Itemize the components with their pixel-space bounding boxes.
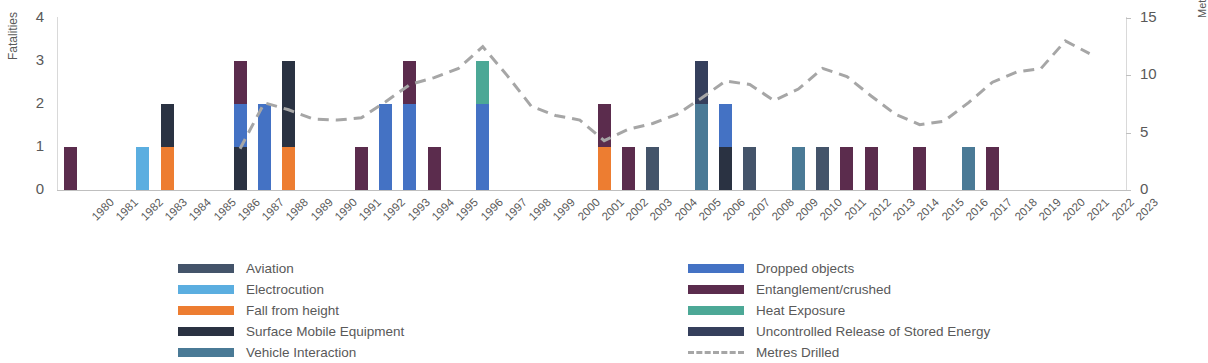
x-tick-2010: 2010 <box>818 196 845 223</box>
x-tick-2004: 2004 <box>672 196 699 223</box>
metres-drilled-line <box>58 18 1126 190</box>
legend-item-heat-exposure[interactable]: Heat Exposure <box>688 300 990 321</box>
x-tick-1987: 1987 <box>260 196 287 223</box>
x-tick-2000: 2000 <box>575 196 602 223</box>
x-tick-2021: 2021 <box>1085 196 1112 223</box>
x-tick-2012: 2012 <box>866 196 893 223</box>
x-tick-2001: 2001 <box>599 196 626 223</box>
legend-label: Entanglement/crushed <box>756 282 891 297</box>
x-tick-2023: 2023 <box>1133 196 1160 223</box>
x-tick-1981: 1981 <box>114 196 141 223</box>
y-tick-mark-right-5 <box>1126 133 1131 134</box>
legend-item-electrocution[interactable]: Electrocution <box>178 279 404 300</box>
legend-swatch-icon <box>688 285 744 294</box>
legend-swatch-icon <box>178 285 234 294</box>
x-tick-2006: 2006 <box>721 196 748 223</box>
x-tick-2011: 2011 <box>842 196 868 222</box>
legend-item-vehicle-interaction[interactable]: Vehicle Interaction <box>178 342 404 363</box>
legend-item-aviation[interactable]: Aviation <box>178 258 404 279</box>
legend-label: Electrocution <box>246 282 324 297</box>
x-tick-1988: 1988 <box>284 196 311 223</box>
y-tick-mark-right-0 <box>1126 190 1131 191</box>
legend-item-entanglement-crushed[interactable]: Entanglement/crushed <box>688 279 990 300</box>
legend-label: Uncontrolled Release of Stored Energy <box>756 324 990 339</box>
legend-label: Metres Drilled <box>756 345 839 360</box>
x-tick-2013: 2013 <box>891 196 918 223</box>
y-tick-right-15: 15 <box>1140 8 1162 25</box>
legend-swatch-icon <box>688 327 744 336</box>
legend-swatch-icon <box>178 264 234 273</box>
y-axis-left-title: Fatalities <box>6 12 20 60</box>
x-tick-2009: 2009 <box>794 196 821 223</box>
legend-swatch-icon <box>688 351 744 354</box>
x-tick-2003: 2003 <box>648 196 675 223</box>
x-tick-1983: 1983 <box>162 196 189 223</box>
legend-left-column: AviationElectrocutionFall from heightSur… <box>178 258 404 363</box>
legend-swatch-icon <box>178 306 234 315</box>
x-tick-2015: 2015 <box>939 196 966 223</box>
y-axis-right-title: Metres Drilled (Millions) <box>1196 0 1208 18</box>
legend-label: Dropped objects <box>756 261 854 276</box>
x-tick-1990: 1990 <box>332 196 359 223</box>
y-tick-mark-right-15 <box>1126 18 1131 19</box>
y-tick-left-4: 4 <box>22 8 44 25</box>
x-tick-1996: 1996 <box>478 196 505 223</box>
x-tick-1994: 1994 <box>429 196 456 223</box>
x-tick-2005: 2005 <box>696 196 723 223</box>
legend-item-dropped-objects[interactable]: Dropped objects <box>688 258 990 279</box>
x-tick-2007: 2007 <box>745 196 772 223</box>
y-axis-right-line <box>1126 17 1127 191</box>
x-tick-2017: 2017 <box>988 196 1015 223</box>
x-tick-1989: 1989 <box>308 196 335 223</box>
y-tick-right-10: 10 <box>1140 65 1162 82</box>
legend-swatch-icon <box>178 327 234 336</box>
x-tick-1984: 1984 <box>187 196 214 223</box>
y-tick-mark-right-10 <box>1126 75 1131 76</box>
x-tick-1986: 1986 <box>235 196 262 223</box>
y-tick-left-3: 3 <box>22 51 44 68</box>
x-tick-1980: 1980 <box>90 196 117 223</box>
legend-item-fall-from-height[interactable]: Fall from height <box>178 300 404 321</box>
x-tick-2002: 2002 <box>624 196 651 223</box>
legend-label: Fall from height <box>246 303 339 318</box>
x-axis-line <box>57 190 1127 191</box>
legend-label: Heat Exposure <box>756 303 845 318</box>
legend-item-uncontrolled-release-of-stored-energy[interactable]: Uncontrolled Release of Stored Energy <box>688 321 990 342</box>
x-tick-1998: 1998 <box>527 196 554 223</box>
x-tick-1991: 1991 <box>357 196 384 223</box>
legend-label: Vehicle Interaction <box>246 345 356 360</box>
y-tick-right-0: 0 <box>1140 180 1162 197</box>
legend-swatch-icon <box>688 264 744 273</box>
legend-right-column: Dropped objectsEntanglement/crushedHeat … <box>688 258 990 363</box>
x-tick-1992: 1992 <box>381 196 408 223</box>
x-tick-1982: 1982 <box>138 196 165 223</box>
legend-item-surface-mobile-equipment[interactable]: Surface Mobile Equipment <box>178 321 404 342</box>
legend-label: Surface Mobile Equipment <box>246 324 404 339</box>
legend-item-metres-drilled[interactable]: Metres Drilled <box>688 342 990 363</box>
x-tick-2020: 2020 <box>1061 196 1088 223</box>
x-tick-1999: 1999 <box>551 196 578 223</box>
x-tick-2019: 2019 <box>1036 196 1063 223</box>
x-tick-2022: 2022 <box>1109 196 1136 223</box>
x-tick-1995: 1995 <box>454 196 481 223</box>
legend-label: Aviation <box>246 261 294 276</box>
x-tick-1997: 1997 <box>502 196 529 223</box>
y-tick-left-1: 1 <box>22 137 44 154</box>
y-tick-left-0: 0 <box>22 180 44 197</box>
legend-swatch-icon <box>178 348 234 357</box>
fatalities-and-metres-drilled-chart: Fatalities Metres Drilled (Millions) 012… <box>0 0 1208 363</box>
x-tick-2014: 2014 <box>915 196 942 223</box>
x-tick-1985: 1985 <box>211 196 238 223</box>
x-tick-1993: 1993 <box>405 196 432 223</box>
y-tick-right-5: 5 <box>1140 123 1162 140</box>
x-tick-2008: 2008 <box>769 196 796 223</box>
legend-swatch-icon <box>688 306 744 315</box>
x-tick-2016: 2016 <box>963 196 990 223</box>
plot-area <box>58 18 1126 190</box>
y-tick-left-2: 2 <box>22 94 44 111</box>
x-tick-2018: 2018 <box>1012 196 1039 223</box>
